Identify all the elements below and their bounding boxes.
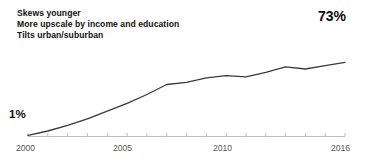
callout-annotation: Skews younger More upscale by income and… <box>17 8 179 42</box>
x-tick-label-2000: 2000 <box>16 143 35 153</box>
x-tick-label-2016: 2016 <box>331 143 350 153</box>
x-tick-label-2005: 2005 <box>113 143 132 153</box>
callout-line-2: More upscale by income and education <box>17 19 179 30</box>
callout-line-1: Skews younger <box>17 8 179 19</box>
x-tick-label-2010: 2010 <box>213 143 232 153</box>
end-value-label: 73% <box>318 8 346 24</box>
x-axis-ticks <box>28 133 345 137</box>
data-line-series <box>28 62 345 135</box>
callout-line-3: Tilts urban/suburban <box>17 30 179 41</box>
start-value-label: 1% <box>9 108 26 120</box>
line-chart-figure: Skews younger More upscale by income and… <box>0 0 373 163</box>
